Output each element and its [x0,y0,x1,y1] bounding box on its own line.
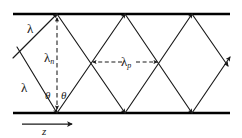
label-lambda-n: λn [44,51,54,64]
label-lambda-n-subscript: n [50,57,54,66]
label-lambda-p-subscript: p [127,61,131,70]
label-lambda-lower: λ [21,81,27,94]
ray-up-exit [192,57,230,113]
figure-canvas [0,0,242,138]
label-lambda-upper: λ [27,22,33,35]
ray-down-exit [192,14,228,66]
label-z-axis: z [42,126,46,137]
ray-zigzag-waveguide-figure: λ λ λn λp θ θ z [0,0,242,138]
label-theta-right: θ [61,90,66,101]
label-lambda-p: λp [121,55,131,68]
label-theta-left: θ [45,90,50,101]
